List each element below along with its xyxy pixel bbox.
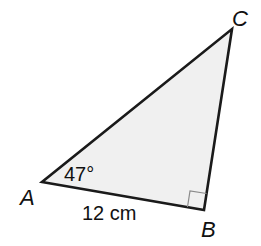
vertex-label-a: A — [20, 187, 35, 209]
vertex-label-c: C — [232, 8, 248, 30]
angle-a-label: 47° — [64, 164, 94, 184]
side-ab-label: 12 cm — [82, 203, 136, 223]
vertex-label-b: B — [201, 219, 216, 241]
